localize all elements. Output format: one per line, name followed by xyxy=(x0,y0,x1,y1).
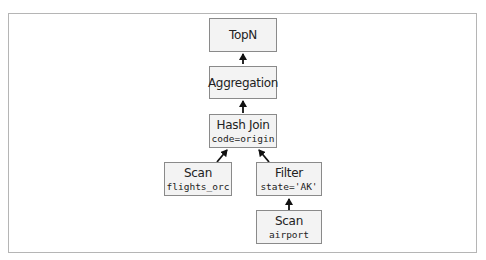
node-title: Aggregation xyxy=(208,76,278,90)
node-detail: flights_orc xyxy=(167,181,230,193)
node-title: Scan xyxy=(275,214,303,228)
node-title: Hash Join xyxy=(216,118,269,132)
node-detail: code=origin xyxy=(212,133,275,145)
arrow-scan-flights-to-hashjoin xyxy=(217,150,227,162)
node-hash-join: Hash Join code=origin xyxy=(209,114,277,148)
node-aggregation: Aggregation xyxy=(209,66,277,99)
node-scan-airport: Scan airport xyxy=(256,210,322,244)
node-detail: airport xyxy=(269,229,309,241)
node-scan-flights: Scan flights_orc xyxy=(164,162,232,196)
node-title: TopN xyxy=(229,28,257,42)
node-detail: state='AK' xyxy=(260,181,317,193)
arrow-filter-to-hashjoin xyxy=(259,150,269,162)
node-filter: Filter state='AK' xyxy=(256,162,322,196)
node-title: Scan xyxy=(184,166,212,180)
node-topn: TopN xyxy=(209,18,277,52)
node-title: Filter xyxy=(275,166,303,180)
